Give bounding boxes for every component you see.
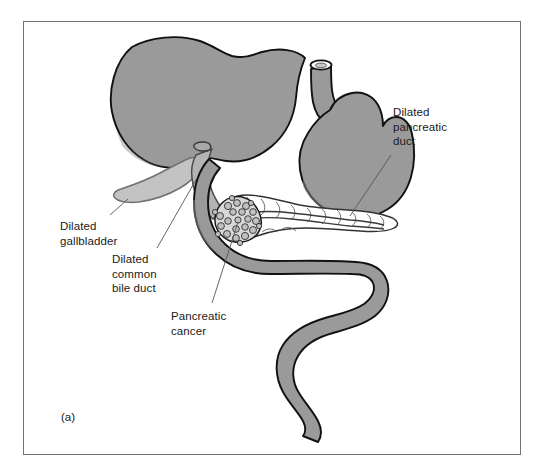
label-pancreatic-cancer: Pancreaticcancer	[171, 309, 226, 338]
oesophagus-lumen-inner	[315, 63, 326, 68]
label-line-1: Dilated	[60, 220, 97, 232]
label-line-2: gallbladder	[60, 235, 117, 247]
label-line-2: pancreatic	[393, 121, 447, 133]
panel-caption: (a)	[61, 411, 75, 423]
leader-dilated-gallbladder	[110, 199, 128, 215]
label-dilated-gallbladder: Dilatedgallbladder	[60, 219, 117, 248]
bile-duct-hilum	[194, 142, 211, 151]
label-line-3: bile duct	[112, 282, 156, 294]
label-line-3: duct	[393, 135, 415, 147]
label-line-2: cancer	[171, 325, 206, 337]
label-dilated-pancreatic-duct: Dilatedpancreaticduct	[393, 105, 447, 149]
label-dilated-common-bile-duct: Dilatedcommonbile duct	[112, 252, 157, 296]
figure-root: Dilatedpancreaticduct Dilatedgallbladder…	[0, 0, 546, 476]
label-line-1: Pancreatic	[171, 310, 226, 322]
label-line-1: Dilated	[393, 106, 430, 118]
label-line-1: Dilated	[112, 253, 149, 265]
label-line-2: common	[112, 268, 157, 280]
